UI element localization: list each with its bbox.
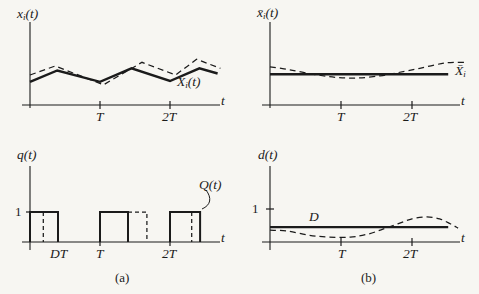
- q-tick-T-label: T: [96, 247, 104, 261]
- d-axis-label: d(t): [258, 148, 278, 163]
- xi-time-axis-label: t: [221, 94, 225, 108]
- xbar-tick-2T-label: 2T: [403, 110, 417, 124]
- q-curve-label: Q(t): [199, 178, 222, 193]
- q-axis-label: q(t): [17, 148, 37, 163]
- xi-axis-label: xi(t): [17, 7, 38, 22]
- d-time-axis-label: t: [461, 231, 465, 245]
- xi-tick-T-label: T: [96, 110, 104, 124]
- q-one-label: 1: [15, 205, 22, 218]
- d-tick-2T-label: 2T: [403, 247, 417, 261]
- xi-tick-2T-label: 2T: [162, 110, 176, 124]
- d-tick-T-label: T: [338, 247, 346, 261]
- xbar-time-axis-label: t: [461, 94, 465, 108]
- q-tick-2T-label: 2T: [162, 247, 176, 261]
- caption-b: (b): [361, 271, 376, 284]
- xbar-panel-dashed-series: [270, 62, 466, 78]
- xi-curve-label: Xi(t): [177, 75, 201, 90]
- waveform-figure: xi(t) Xi(t) T 2T t x̄i(t) X̄i T 2T t q(t…: [0, 0, 479, 294]
- q-tick-DT-label: DT: [50, 247, 67, 261]
- d-one-label: 1: [252, 202, 259, 215]
- caption-a: (a): [115, 271, 129, 284]
- xbar-curve-label: X̄i: [455, 64, 466, 79]
- d-constant-label: D: [309, 210, 319, 224]
- xbar-axis-label: x̄i(t): [257, 6, 278, 21]
- q-time-axis-label: t: [221, 231, 225, 245]
- xbar-tick-T-label: T: [337, 110, 345, 124]
- q-panel-solid-series: [30, 212, 200, 242]
